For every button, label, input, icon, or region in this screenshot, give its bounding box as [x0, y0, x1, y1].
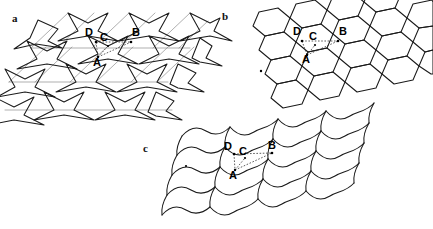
figure-background [0, 0, 433, 229]
panel-a-vertex-label-d: D [85, 26, 93, 38]
panel-b-letter: b [222, 10, 228, 22]
panel-b-vertex-label-a: A [302, 53, 310, 65]
panel-c-vertex-label-d: D [224, 140, 232, 152]
panel-a-vertex-label-a: A [93, 56, 101, 68]
panel-c-vertex-label-b: B [268, 139, 276, 151]
panel-b-vertex-label-b: B [339, 25, 347, 37]
panel-c-vertex-label-c: C [239, 145, 247, 157]
honeycomb-structures-figure: a D C B A [0, 0, 433, 229]
panel-b-vertex-label-d: D [293, 25, 301, 37]
panel-c-letter: c [143, 142, 148, 154]
panel-c-vertex-label-a: A [229, 169, 237, 181]
panel-a-letter: a [12, 12, 18, 24]
panel-a-vertex-label-b: B [132, 26, 140, 38]
panel-a-vertex-label-c: C [100, 31, 108, 43]
panel-b-vertex-label-c: C [309, 30, 317, 42]
